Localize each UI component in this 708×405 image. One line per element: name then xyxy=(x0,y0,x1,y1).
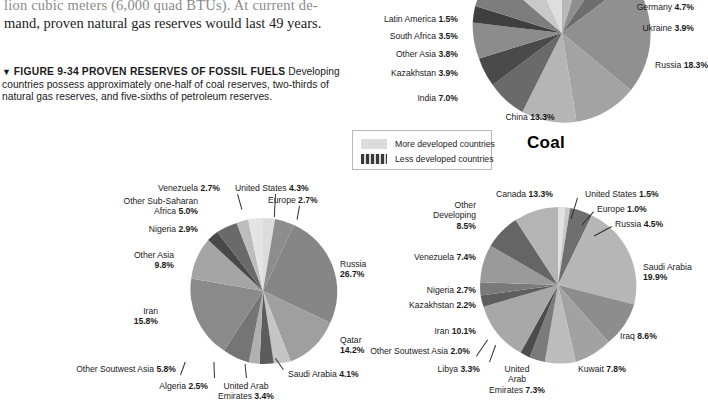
legend-item-more-developed: More developed countries xyxy=(361,136,491,151)
body-line-2: mand, proven natural gas reserves would … xyxy=(4,14,334,32)
label-oil-iran: Iran 10.1% xyxy=(380,326,476,336)
leader-line-gas-venezuela xyxy=(237,194,242,210)
caption-figure-number: FIGURE 9-34 xyxy=(14,66,79,77)
label-oil-nigeria: Nigeria 2.7% xyxy=(380,285,476,295)
legend-swatch-less-developed-icon xyxy=(361,154,387,164)
body-paragraph: lion cubic meters (6,000 quad BTUs). At … xyxy=(4,0,334,32)
pie-chart-natural-gas xyxy=(190,218,336,364)
label-gas-nigeria: Nigeria 2.9% xyxy=(90,224,198,234)
label-coal-other-asia: Other Asia 3.8% xyxy=(355,49,458,59)
caption-title: PROVEN RESERVES OF FOSSIL FUELS xyxy=(82,66,286,77)
label-gas-iran: Iran 15.8% xyxy=(80,306,158,327)
label-oil-other-sw-asia: Other Soutwest Asia 2.0% xyxy=(340,346,470,356)
label-gas-other-ssa: Other Sub-Saharan Africa 5.0% xyxy=(78,196,198,217)
pie-chart-coal xyxy=(472,0,652,123)
figure-caption: ▼ FIGURE 9-34 PROVEN RESERVES OF FOSSIL … xyxy=(2,66,347,104)
label-coal-china: China 13.3% xyxy=(480,112,580,122)
label-oil-venezuela: Venezuela 7.4% xyxy=(368,252,476,262)
chart-title-coal: Coal xyxy=(527,133,565,153)
body-line-1: lion cubic meters (6,000 quad BTUs). At … xyxy=(4,0,334,14)
label-gas-other-sw-asia: Other Soutwest Asia 5.8% xyxy=(28,364,176,374)
label-gas-uae: United Arab Emirates 3.4% xyxy=(208,381,284,402)
legend-label-more-developed: More developed countries xyxy=(395,139,495,149)
leader-line-gas-algeria xyxy=(213,362,215,378)
label-gas-saudi-arabia: Saudi Arabia 4.1% xyxy=(288,369,359,379)
label-gas-algeria: Algeria 2.5% xyxy=(98,381,208,391)
label-oil-libya: Libya 3.3% xyxy=(398,364,480,374)
label-oil-other-developing: Other Developing 8.5% xyxy=(398,200,476,231)
label-oil-europe: Europe 1.0% xyxy=(597,204,647,214)
label-coal-latin-america: Latin America 1.5% xyxy=(340,14,458,24)
label-gas-venezuela: Venezuela 2.7% xyxy=(110,183,220,193)
legend-label-less-developed: Less developed countries xyxy=(395,154,494,164)
label-oil-saudi-arabia: Saudi Arabia 19.9% xyxy=(643,262,699,283)
leader-line-gas-other-sw-asia xyxy=(180,362,186,375)
label-oil-iraq: Iraq 8.6% xyxy=(620,331,657,341)
label-gas-united-states: United States 4.3% xyxy=(235,183,309,193)
label-oil-united-states: United States 1.5% xyxy=(585,189,659,199)
gas-pie-svg xyxy=(190,218,336,364)
legend-item-less-developed: Less developed countries xyxy=(361,151,491,166)
oil-pie-svg xyxy=(480,207,636,363)
pie-chart-petroleum xyxy=(480,207,636,363)
label-oil-kuwait: Kuwait 7.8% xyxy=(578,364,626,374)
label-coal-south-africa: South Africa 3.5% xyxy=(350,31,458,41)
label-coal-germany: Germany 4.7% xyxy=(560,2,694,12)
coal-pie-svg xyxy=(472,0,652,123)
label-coal-ukraine: Ukraine 3.9% xyxy=(560,23,694,33)
label-oil-kazakhstan: Kazakhstan 2.2% xyxy=(368,300,476,310)
label-coal-kazakhstan: Kazakhstan 3.9% xyxy=(355,68,458,78)
development-legend: More developed countries Less developed … xyxy=(352,130,492,170)
leader-line-gas-united-states xyxy=(274,194,276,217)
legend-swatch-more-developed-icon xyxy=(361,139,387,149)
leader-line-gas-uae xyxy=(245,364,247,378)
label-oil-canada: Canada 13.3% xyxy=(496,189,553,199)
label-coal-russia: Russia 18.3% xyxy=(655,60,708,70)
label-coal-india: India 7.0% xyxy=(370,93,458,103)
caption-triangle-icon: ▼ xyxy=(2,67,11,77)
label-oil-russia: Russia 4.5% xyxy=(615,219,663,229)
label-gas-other-asia: Other Asia 9.8% xyxy=(78,250,174,271)
label-oil-uae: United Arab Emirates 7.3% xyxy=(478,364,556,395)
